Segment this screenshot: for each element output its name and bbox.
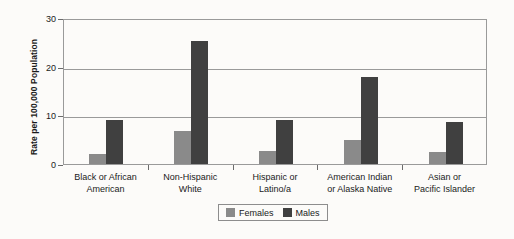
bar-males xyxy=(446,122,463,164)
bar-males xyxy=(106,120,123,164)
bar-males xyxy=(191,41,208,164)
bar-group xyxy=(318,20,403,164)
bar-females xyxy=(429,152,446,164)
y-tick-label-10: 10 xyxy=(38,111,56,121)
bar-males xyxy=(276,120,293,164)
legend-item-males: Males xyxy=(283,208,320,218)
y-axis-title: Rate per 100,000 Population xyxy=(29,17,39,177)
legend-label-males: Males xyxy=(296,208,320,218)
plot-inner xyxy=(64,20,486,164)
bar-females xyxy=(259,151,276,164)
category-label-line: Pacific Islander xyxy=(402,184,487,196)
category-label: Asian orPacific Islander xyxy=(402,172,487,195)
category-label-line: Latino/a xyxy=(233,184,318,196)
x-tick-mark xyxy=(148,165,149,170)
y-tick-mark-0 xyxy=(58,165,63,166)
category-label-line: Black or African xyxy=(63,172,148,184)
category-label-line: Non-Hispanic xyxy=(148,172,233,184)
y-tick-label-0: 0 xyxy=(38,160,56,170)
plot-area xyxy=(63,19,487,165)
legend-swatch-females-icon xyxy=(226,208,235,217)
legend-swatch-males-icon xyxy=(283,208,292,217)
y-tick-label-20: 20 xyxy=(38,63,56,73)
x-tick-mark xyxy=(402,165,403,170)
category-label: American Indianor Alaska Native xyxy=(317,172,402,195)
bar-females xyxy=(344,140,361,164)
category-label-line: Hispanic or xyxy=(233,172,318,184)
bar-males xyxy=(361,77,378,164)
bar-females xyxy=(89,154,106,164)
legend-item-females: Females xyxy=(226,208,274,218)
bar-females xyxy=(174,131,191,164)
category-label: Black or AfricanAmerican xyxy=(63,172,148,195)
category-label: Hispanic orLatino/a xyxy=(233,172,318,195)
bar-group xyxy=(234,20,319,164)
category-label-line: Asian or xyxy=(402,172,487,184)
legend-label-females: Females xyxy=(239,208,274,218)
bar-group xyxy=(403,20,488,164)
category-label: Non-HispanicWhite xyxy=(148,172,233,195)
bar-group xyxy=(64,20,149,164)
category-label-line: or Alaska Native xyxy=(317,184,402,196)
chart-legend: Females Males xyxy=(218,204,328,221)
x-tick-mark xyxy=(233,165,234,170)
x-tick-mark xyxy=(317,165,318,170)
bar-group xyxy=(149,20,234,164)
y-tick-label-30: 30 xyxy=(38,14,56,24)
category-label-line: American Indian xyxy=(317,172,402,184)
category-label-line: White xyxy=(148,184,233,196)
category-label-line: American xyxy=(63,184,148,196)
bar-chart-figure: Rate per 100,000 Population 0102030 Blac… xyxy=(0,0,514,239)
